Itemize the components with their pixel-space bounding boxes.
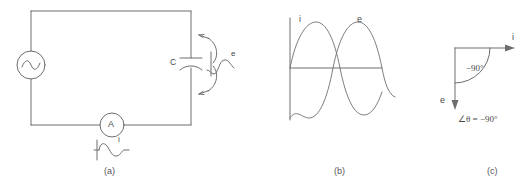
voltage-waveform-label: e [231,50,235,58]
circuit-loop [31,11,191,125]
current-wave-curve [94,144,129,156]
panel-a-caption: (a) [104,167,115,176]
ac-source-symbol [17,51,45,79]
phasor-voltage-label: e [440,96,445,105]
current-waveform-mini [94,140,129,160]
phasor-current-label: i [512,33,514,42]
phasor-current-arrowhead [505,45,515,52]
waveform-plot-axes [290,18,382,120]
ammeter-label: A [108,120,114,129]
plot-current-label: i [299,15,301,24]
figure-drawing [0,0,530,190]
panel-b-caption: (b) [334,167,345,176]
phasor-angle-equation: ∠θ = −90° [458,115,498,124]
figure-container: C e A i (a) i e (b) i e −90° ∠θ = −90° (… [0,0,530,190]
phasor-arc-label: −90° [466,64,484,73]
phasor-diagram [452,45,516,111]
voltage-waveform-mini [207,52,234,76]
voltage-bracket [199,35,217,95]
capacitor-label: C [170,58,176,67]
current-waveform-label: i [118,136,120,144]
voltage-bracket-arc-upper [208,38,217,63]
plot-voltage-label: e [357,15,362,24]
plot-curve-voltage [290,22,395,118]
phasor-voltage-arrowhead [452,100,459,110]
panel-c-caption: (c) [487,167,498,176]
voltage-bracket-arc-lower [208,66,217,91]
ac-source-sine-glyph [22,61,40,70]
